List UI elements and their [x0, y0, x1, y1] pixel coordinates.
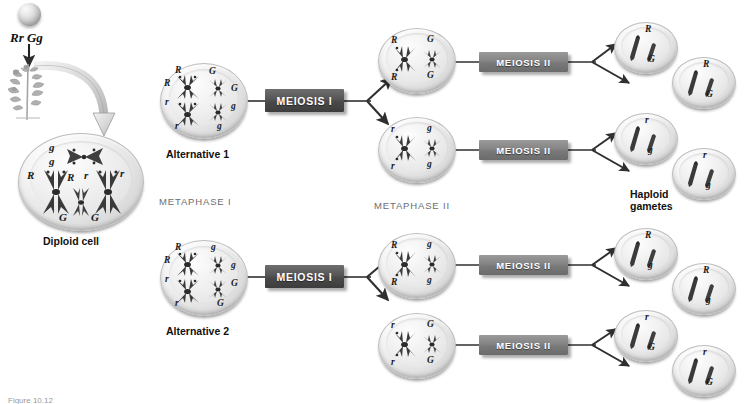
allele-label-r1: r: [84, 170, 88, 181]
alternative2-metaphase1-cell: R R r r g g: [160, 240, 248, 316]
allele-gamete-3-small: g: [648, 146, 653, 156]
chromosome-G-m2-1: [421, 49, 443, 69]
chromosome-R-pair-upper: [173, 74, 203, 100]
allele-gamete-1-small: G: [648, 55, 655, 65]
allele-label-g2: g: [49, 156, 55, 167]
allele-a2m1-r-upper: r: [165, 275, 169, 285]
allele-a1m1-G-lower: G: [231, 84, 238, 94]
allele-a1m1-R-upper: R: [175, 66, 181, 76]
allele-a1m1-r-upper: r: [165, 98, 169, 108]
alternative2-label: Alternative 2: [166, 325, 229, 338]
chromosome-big-gamete-1: [627, 33, 645, 63]
metaphase2-cell-a1-top: R R G G: [378, 28, 456, 94]
chromosome-g-m2-2: [421, 138, 443, 158]
metaphase2-label: METAPHASE II: [374, 200, 450, 211]
allele-a1m1-G-upper: G: [209, 67, 216, 77]
gamete-cell-2: R G: [672, 57, 736, 109]
chromosome-big-gamete-5: [627, 239, 645, 269]
metaphase1-label: METAPHASE I: [159, 196, 232, 207]
alternative1-metaphase1-cell: R R r r G G: [160, 63, 248, 139]
chromosome-r-m2-2: [389, 134, 419, 162]
allele-gamete-6-big: R: [703, 266, 709, 276]
chromosome-Gg-top: [63, 146, 107, 168]
chromosome-big-gamete-7: [627, 321, 645, 351]
gamete-cell-1: R G: [614, 22, 678, 74]
diploid-cell: g g R R: [18, 133, 144, 231]
meiosis-2-box-1[interactable]: MEIOSIS II: [479, 52, 568, 72]
allele-a1m1-g-upper: g: [231, 102, 236, 112]
allele-a2m1-R-upper: R: [175, 243, 181, 253]
chromosome-big-gamete-6: [685, 274, 703, 304]
metaphase2-cell-a2-top: R R g g: [378, 233, 456, 299]
allele-a2m1-R-lower: R: [164, 256, 170, 266]
allele-gamete-8-small: G: [706, 378, 713, 388]
chromosome-big-gamete-4: [685, 159, 703, 189]
chromosome-big-gamete-2: [685, 68, 703, 98]
chromosome-big-gamete-3: [627, 124, 645, 154]
chromosome-big-gamete-8: [685, 356, 703, 386]
allele-a2m1-g-upper: g: [211, 243, 216, 253]
allele-m2-3-right-top: g: [427, 240, 432, 250]
pea-plant-illustration: [2, 58, 62, 128]
chromosome-GG-bottom: [69, 186, 93, 218]
gamete-cell-5: R g: [614, 228, 678, 280]
meiosis-2-box-4[interactable]: MEIOSIS II: [479, 335, 568, 355]
gamete-cell-7: r G: [614, 310, 678, 362]
allele-gamete-1-big: R: [645, 25, 651, 35]
allele-m2-3-right-bottom: g: [427, 276, 432, 286]
chromosome-G-pair-upper: [207, 78, 229, 98]
allele-m2-2-left-top: r: [391, 125, 395, 135]
allele-label-G1: G: [59, 212, 67, 223]
meiosis-2-box-2[interactable]: MEIOSIS II: [479, 140, 568, 160]
allele-a2m1-G-lower: G: [217, 299, 224, 309]
chromosome-g-pair-upper-alt2: [207, 255, 229, 275]
diploid-cell-label: Diploid cell: [43, 235, 99, 248]
meiosis-1-box-alt1[interactable]: MEIOSIS I: [265, 89, 344, 112]
chromosome-R-m2-1: [389, 45, 419, 73]
allele-gamete-2-big: R: [703, 60, 709, 70]
alternative1-label: Alternative 1: [166, 148, 229, 161]
allele-label-r2: r: [120, 168, 124, 179]
allele-a1m1-r-lower: r: [175, 122, 179, 132]
gamete-cell-4: r g: [672, 148, 736, 200]
haploid-gametes-label-line1: Haploid: [630, 188, 669, 201]
allele-label-R1: R: [27, 170, 34, 181]
allele-a1m1-R-lower: R: [164, 79, 170, 89]
allele-m2-2-right-bottom: g: [427, 160, 432, 170]
chromosome-r-m2-4: [389, 330, 419, 358]
allele-m2-4-right-bottom: G: [427, 356, 434, 366]
meiosis-1-box-alt2[interactable]: MEIOSIS I: [265, 265, 344, 288]
allele-a2m1-r-lower: r: [175, 299, 179, 309]
allele-gamete-8-big: r: [703, 348, 707, 358]
meiosis-2-box-3[interactable]: MEIOSIS II: [479, 255, 568, 275]
allele-gamete-2-small: G: [706, 90, 713, 100]
allele-a2m1-g-lower: g: [231, 261, 236, 271]
figure-caption: Figure 10.12: [8, 396, 508, 404]
chromosome-g-m2-3: [421, 254, 443, 274]
allele-m2-4-right-top: G: [427, 320, 434, 330]
allele-m2-3-left-bottom: R: [391, 278, 397, 288]
chromosome-G-pair-lower-alt2: [207, 279, 229, 299]
chromosome-g-pair-lower: [207, 102, 229, 122]
allele-gamete-7-small: G: [648, 343, 655, 353]
figure-canvas: Rr Gg: [0, 0, 748, 404]
allele-m2-1-left-bottom: R: [391, 73, 397, 83]
allele-label-g1: g: [49, 142, 55, 153]
allele-m2-4-left-bottom: r: [391, 358, 395, 368]
allele-gamete-6-small: g: [706, 296, 711, 306]
allele-m2-4-left-top: r: [391, 321, 395, 331]
chromosome-R-m2-3: [389, 250, 419, 278]
allele-gamete-5-big: R: [645, 231, 651, 241]
allele-m2-3-left-top: R: [391, 241, 397, 251]
genotype-label: Rr Gg: [10, 30, 43, 46]
seed-icon: [18, 3, 41, 26]
allele-a2m1-G-upper: G: [231, 279, 238, 289]
chromosome-G-m2-4: [421, 334, 443, 354]
allele-gamete-4-big: r: [703, 151, 707, 161]
allele-m2-1-right-top: G: [427, 35, 434, 45]
metaphase2-cell-a2-bottom: r r G G: [378, 313, 456, 379]
allele-m2-2-right-top: g: [427, 124, 432, 134]
allele-label-G2: G: [91, 212, 99, 223]
allele-m2-1-right-bottom: G: [427, 71, 434, 81]
gamete-cell-3: r g: [614, 113, 678, 165]
